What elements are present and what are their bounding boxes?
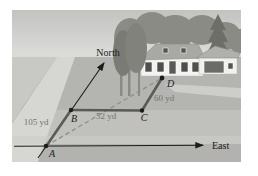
window: [145, 62, 152, 72]
point-b-label: B: [71, 113, 77, 124]
point-b: [69, 108, 73, 112]
scene-illustration: North East A B C D 105 yd 52 yd 60 yd: [12, 10, 241, 162]
east-label: East: [212, 140, 229, 151]
attic-window: [181, 48, 186, 53]
distance-bc-label: 52 yd: [96, 111, 117, 121]
point-a: [44, 144, 48, 148]
garage-window: [228, 63, 233, 69]
textbook-figure: North East A B C D 105 yd 52 yd 60 yd: [12, 10, 241, 162]
garage-door: [204, 61, 224, 73]
distance-ab-label: 105 yd: [24, 117, 49, 127]
front-door: [169, 61, 176, 74]
east-path-band: [12, 136, 241, 144]
point-d-label: D: [166, 78, 175, 89]
point-a-label: A: [48, 148, 56, 159]
attic-window: [163, 48, 168, 53]
window: [192, 62, 199, 72]
window: [157, 62, 164, 72]
window: [181, 62, 188, 72]
point-c-label: C: [141, 112, 148, 123]
north-label: North: [96, 47, 119, 58]
point-d: [160, 76, 165, 81]
distance-cd-label: 60 yd: [154, 93, 175, 103]
